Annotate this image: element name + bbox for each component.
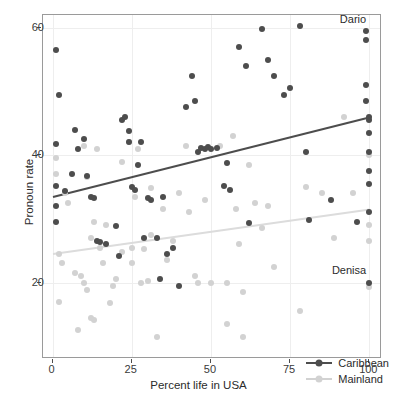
data-point: [183, 104, 189, 110]
legend-item-mainland[interactable]: Mainland: [306, 373, 389, 385]
gridline-horizontal: [43, 28, 380, 29]
data-point: [214, 145, 220, 151]
data-point: [331, 235, 337, 241]
data-point: [135, 162, 141, 168]
data-point: [103, 222, 109, 228]
data-point: [148, 185, 154, 191]
data-point: [192, 98, 198, 104]
data-point: [72, 270, 78, 276]
data-point: [303, 149, 309, 155]
data-point: [297, 23, 303, 29]
data-point: [97, 239, 103, 245]
x-tick-label: 25: [125, 363, 137, 375]
y-axis-title: Pronoun rate: [23, 137, 35, 247]
data-point: [164, 257, 170, 263]
data-point: [271, 73, 277, 79]
data-point: [81, 143, 87, 149]
data-point: [59, 260, 65, 266]
data-point: [287, 85, 293, 91]
data-point: [366, 130, 372, 136]
data-point: [366, 280, 372, 286]
data-point: [195, 280, 201, 286]
data-point: [53, 47, 59, 53]
x-tick-label: 0: [48, 363, 54, 375]
data-point: [366, 238, 372, 244]
legend-key-icon: [306, 358, 332, 369]
data-point: [240, 289, 246, 295]
data-point: [246, 162, 252, 168]
legend-item-caribbean[interactable]: Caribbean: [306, 357, 389, 369]
data-point: [230, 133, 236, 139]
data-point: [88, 235, 94, 241]
data-point: [135, 146, 141, 152]
data-point: [81, 280, 87, 286]
data-point: [53, 171, 59, 177]
data-point: [56, 92, 62, 98]
data-point: [363, 98, 369, 104]
data-point: [119, 159, 125, 165]
data-point: [306, 217, 312, 223]
data-point: [129, 245, 135, 251]
plot-panel: DarioDenisa: [42, 14, 381, 358]
data-point: [297, 308, 303, 314]
data-point: [265, 57, 271, 63]
data-point: [265, 203, 271, 209]
data-point: [113, 223, 119, 229]
data-point: [100, 260, 106, 266]
data-point: [81, 136, 87, 142]
gridline-vertical: [290, 15, 291, 357]
data-point: [56, 251, 62, 257]
data-point: [303, 184, 309, 190]
data-point: [224, 280, 230, 286]
data-point: [84, 173, 90, 179]
data-point: [259, 26, 265, 32]
data-point: [363, 37, 369, 43]
data-point: [75, 327, 81, 333]
data-point: [366, 149, 372, 155]
data-point: [160, 206, 166, 212]
data-point: [126, 139, 132, 145]
x-tick-label: 50: [204, 363, 216, 375]
data-point: [328, 197, 334, 203]
x-tick-label: 75: [283, 363, 295, 375]
data-point: [246, 220, 252, 226]
data-point: [183, 143, 189, 149]
legend: CaribbeanMainland: [306, 357, 389, 385]
data-point: [148, 197, 154, 203]
data-point: [164, 251, 170, 257]
data-point: [224, 160, 230, 166]
data-point: [160, 194, 166, 200]
data-point: [252, 200, 258, 206]
data-point: [208, 280, 214, 286]
data-point: [341, 114, 347, 120]
data-point: [186, 209, 192, 215]
data-point: [94, 146, 100, 152]
data-point: [170, 238, 176, 244]
legend-item-label: Mainland: [338, 373, 383, 385]
data-point: [84, 287, 90, 293]
annotation-denisa: Denisa: [332, 264, 366, 276]
data-point: [53, 203, 59, 209]
data-point: [154, 235, 160, 241]
data-point: [350, 190, 356, 196]
legend-item-label: Caribbean: [338, 357, 389, 369]
data-point: [154, 334, 160, 340]
annotation-dario: Dario: [340, 13, 366, 25]
data-point: [122, 114, 128, 120]
data-point: [208, 146, 214, 152]
data-point: [110, 283, 116, 289]
data-point: [366, 181, 372, 187]
data-point: [138, 139, 144, 145]
data-point: [363, 82, 369, 88]
data-point: [53, 141, 59, 147]
data-point: [189, 73, 195, 79]
data-point: [202, 197, 208, 203]
data-point: [363, 28, 369, 34]
data-point: [221, 183, 227, 189]
data-point: [126, 128, 132, 134]
data-point: [129, 260, 135, 266]
data-point: [113, 276, 119, 282]
data-point: [170, 245, 176, 251]
data-point: [53, 183, 59, 189]
data-point: [91, 219, 97, 225]
